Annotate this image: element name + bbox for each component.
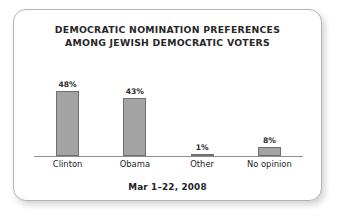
category-labels: Clinton Obama Other No opinion [34, 159, 303, 169]
plot-area: 48% 43% 1% 8% [34, 65, 303, 157]
bar-value-other: 1% [196, 144, 209, 152]
bar-no-opinion: 8% [236, 65, 303, 156]
bar-rect-clinton [56, 91, 79, 156]
chart-card: DEMOCRATIC NOMINATION PREFERENCES AMONG … [13, 9, 322, 201]
chart-title-line-1: DEMOCRATIC NOMINATION PREFERENCES [14, 24, 321, 37]
bar-other: 1% [169, 65, 236, 156]
bar-value-obama: 43% [126, 88, 144, 96]
bar-rect-obama [123, 98, 146, 156]
chart-title: DEMOCRATIC NOMINATION PREFERENCES AMONG … [14, 24, 321, 49]
bar-obama: 43% [101, 65, 168, 156]
bar-value-clinton: 48% [59, 81, 77, 89]
x-axis-line [34, 156, 303, 157]
category-label-obama: Obama [101, 159, 168, 169]
date-range-caption: Mar 1–22, 2008 [14, 182, 321, 192]
category-label-other: Other [169, 159, 236, 169]
bar-value-no-opinion: 8% [263, 137, 276, 145]
bar-clinton: 48% [34, 65, 101, 156]
bar-group: 48% 43% 1% 8% [34, 65, 303, 156]
bar-rect-no-opinion [258, 147, 281, 156]
chart-figure: DEMOCRATIC NOMINATION PREFERENCES AMONG … [0, 0, 343, 223]
chart-title-line-2: AMONG JEWISH DEMOCRATIC VOTERS [14, 37, 321, 50]
category-label-clinton: Clinton [34, 159, 101, 169]
category-label-no-opinion: No opinion [236, 159, 303, 169]
